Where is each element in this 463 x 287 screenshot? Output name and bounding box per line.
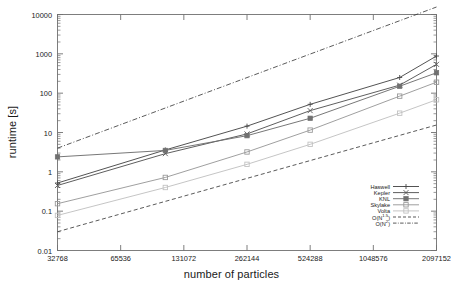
y-tick-label: 1 — [18, 167, 52, 176]
y-axis-title: runtime [s] — [6, 92, 18, 172]
legend-samples — [393, 184, 419, 223]
x-axis-title: number of particles — [0, 268, 463, 280]
x-tick-label: 524288 — [298, 254, 323, 263]
y-tick-label: 0.1 — [18, 207, 52, 216]
legend-entry-label: O(N2) — [300, 219, 390, 227]
x-tick-label: 65536 — [110, 254, 131, 263]
y-tick-label: 10000 — [18, 10, 52, 19]
x-tick-label: 262144 — [235, 254, 260, 263]
x-tick-label: 1048576 — [359, 254, 388, 263]
y-tick-label: 100 — [18, 89, 52, 98]
x-tick-label: 32768 — [47, 254, 68, 263]
plot-canvas — [0, 0, 463, 287]
x-tick-label: 2097152 — [422, 254, 451, 263]
y-tick-label: 10 — [18, 128, 52, 137]
legend-entry-label: Skylake — [300, 202, 390, 208]
series-line-knl — [58, 73, 437, 157]
y-tick-label: 1000 — [18, 49, 52, 58]
legend-entry-label: KNL — [300, 196, 390, 202]
chart-container: number of particles runtime [s] 32768655… — [0, 0, 463, 287]
legend-entry-label: Kepler — [300, 190, 390, 196]
x-tick-label: 131072 — [171, 254, 196, 263]
legend-entry-label: Haswell — [300, 184, 390, 190]
y-tick-label: 0.01 — [18, 246, 52, 255]
